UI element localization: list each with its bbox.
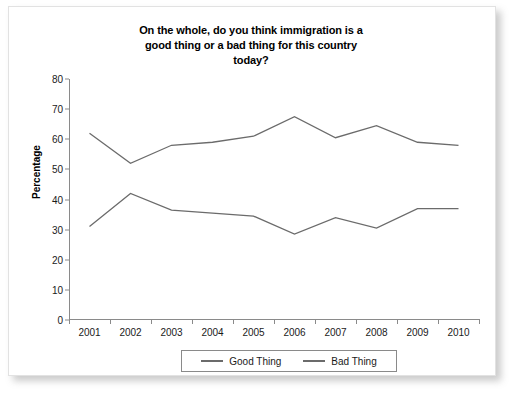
chart-title-line-1: On the whole, do you think immigration i…: [101, 23, 401, 38]
y-tick-label: 80: [52, 74, 63, 85]
x-tick-label: 2009: [406, 327, 428, 338]
x-tick-label: 2002: [119, 327, 141, 338]
legend-label: Good Thing: [229, 356, 281, 367]
y-tick-label: 40: [52, 194, 63, 205]
series-line: [90, 193, 459, 234]
series-line: [90, 117, 459, 164]
y-tick-label: 50: [52, 164, 63, 175]
x-tick-mark: [479, 319, 480, 324]
x-tick-label: 2001: [78, 327, 100, 338]
chart-title-line-3: today?: [101, 53, 401, 68]
legend-entry[interactable]: Good Thing: [201, 356, 281, 367]
x-tick-label: 2004: [201, 327, 223, 338]
y-tick-label: 10: [52, 284, 63, 295]
chart-legend: Good ThingBad Thing: [181, 350, 397, 372]
y-tick-label: 0: [57, 315, 63, 326]
y-axis-label: Percentage: [31, 145, 42, 199]
x-tick-label: 2010: [447, 327, 469, 338]
chart-title-line-2: good thing or a bad thing for this count…: [101, 38, 401, 53]
x-tick-label: 2008: [365, 327, 387, 338]
x-tick-label: 2007: [324, 327, 346, 338]
y-tick-label: 60: [52, 134, 63, 145]
y-tick-label: 70: [52, 104, 63, 115]
legend-entry[interactable]: Bad Thing: [303, 356, 376, 367]
legend-label: Bad Thing: [331, 356, 376, 367]
series-lines: [69, 79, 479, 320]
chart-card: On the whole, do you think immigration i…: [8, 6, 496, 376]
legend-line-icon: [303, 360, 325, 362]
y-tick-label: 30: [52, 224, 63, 235]
plot-area: 01020304050607080 2001200220032004200520…: [69, 79, 479, 320]
legend-line-icon: [201, 360, 223, 362]
chart-title: On the whole, do you think immigration i…: [101, 23, 401, 68]
x-tick-label: 2006: [283, 327, 305, 338]
x-tick-label: 2003: [160, 327, 182, 338]
y-tick-label: 20: [52, 254, 63, 265]
x-tick-label: 2005: [242, 327, 264, 338]
